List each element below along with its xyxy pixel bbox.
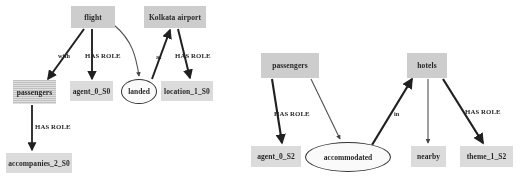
node-theme-1-s2[interactable]: theme_1_S2 [460, 146, 513, 167]
edge-label-at: at [156, 53, 161, 60]
node-landed[interactable]: landed [121, 79, 157, 104]
node-hotels[interactable]: hotels [407, 53, 447, 78]
node-accompanies-2-s0[interactable]: accompanies_2_S0 [6, 153, 72, 173]
node-agent-0-s2[interactable]: agent_0_S2 [251, 146, 301, 167]
edge-label-has-role-passengers-accompanies: HAS ROLE [35, 123, 71, 130]
node-passengers-right[interactable]: passengers [261, 53, 319, 78]
node-accommodated[interactable]: accommodated [305, 142, 391, 172]
figure-canvas: flight Kolkata airport passengers agent_… [0, 0, 527, 187]
node-flight[interactable]: flight [71, 6, 115, 28]
edge-label-has-role-kolkata-location: HAS ROLE [175, 52, 211, 59]
edge-flight-landed [114, 25, 139, 76]
edge-passengers2-accommodated [311, 79, 340, 139]
node-nearby[interactable]: nearby [411, 146, 446, 167]
edge-label-has-role-hotels-theme: HAS ROLE [465, 108, 501, 115]
edge-accommodated-hotels [372, 79, 412, 145]
edge-label-with: with [58, 52, 70, 59]
edge-label-has-role-flight-agent: HAS ROLE [85, 52, 121, 59]
node-kolkata-airport[interactable]: Kolkata airport [144, 6, 206, 28]
node-location-1-s0[interactable]: location_1_S0 [161, 81, 213, 101]
node-passengers-left[interactable]: passengers [13, 80, 56, 104]
edge-label-in: in [394, 110, 399, 117]
edge-label-has-role-passengers-agent: HAS ROLE [274, 110, 310, 117]
node-agent-0-s0[interactable]: agent_0_S0 [70, 81, 113, 101]
